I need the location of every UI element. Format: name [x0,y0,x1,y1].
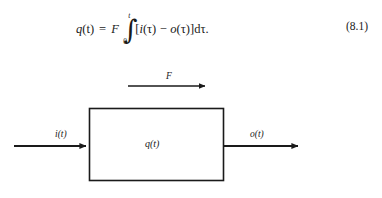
input-label: i(t) [55,129,67,139]
output-label: o(t) [250,129,264,139]
figure-page: q(t) = F t ∫ 0 [i(τ) − o(τ)]dτ. (8.1) [0,0,382,198]
flow-arrow-label: F [166,71,172,81]
diagram-canvas [0,0,382,198]
block-label: q(t) [145,138,159,149]
block-diagram: F i(t) o(t) q(t) [0,0,382,198]
